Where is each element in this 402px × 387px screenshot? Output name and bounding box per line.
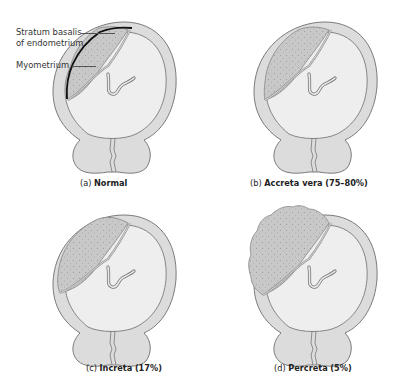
leader-myometrium xyxy=(72,66,96,67)
caption-title: Increta xyxy=(100,363,133,373)
caption-increta: (c) Increta (17%) xyxy=(86,363,162,373)
label-stratum-basalis-line1: Stratum basalis xyxy=(16,27,83,38)
caption-title: Normal xyxy=(94,178,127,188)
caption-title: Accreta vera xyxy=(264,178,322,188)
label-stratum-basalis-line2: of endometrium xyxy=(16,38,83,49)
caption-percent: (17%) xyxy=(135,363,162,373)
leader-stratum-basalis xyxy=(81,33,115,34)
panel-increta: (c) Increta (17%) xyxy=(0,193,201,386)
caption-prefix: (d) xyxy=(274,363,286,373)
caption-accreta-vera: (b) Accreta vera (75–80%) xyxy=(250,178,368,188)
caption-prefix: (a) xyxy=(80,178,91,188)
caption-percent: (5%) xyxy=(330,363,351,373)
caption-prefix: (c) xyxy=(86,363,97,373)
caption-percreta: (d) Percreta (5%) xyxy=(274,363,352,373)
label-myometrium: Myometrium xyxy=(16,60,69,71)
caption-prefix: (b) xyxy=(250,178,262,188)
uterus-increta-illustration xyxy=(0,193,201,386)
uterus-percreta-illustration xyxy=(201,193,402,386)
caption-normal: (a) Normal xyxy=(80,178,127,188)
panel-normal: Stratum basalis of endometrium Myometriu… xyxy=(0,0,201,193)
caption-title: Percreta xyxy=(288,363,327,373)
caption-percent: (75–80%) xyxy=(325,178,368,188)
uterus-accreta-illustration xyxy=(201,0,402,193)
label-stratum-basalis: Stratum basalis of endometrium xyxy=(16,27,83,49)
panel-accreta-vera: (b) Accreta vera (75–80%) xyxy=(201,0,402,193)
panel-percreta: (d) Percreta (5%) xyxy=(201,193,402,386)
